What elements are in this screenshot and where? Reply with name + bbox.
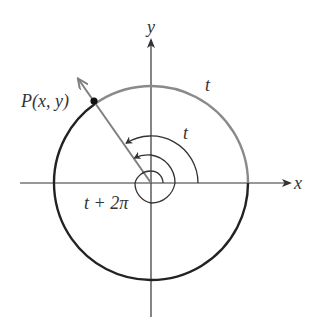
spiral-label: t + 2π — [84, 193, 129, 213]
point-label: P(x, y) — [20, 91, 69, 112]
x-axis-label: x — [293, 173, 302, 193]
point-p — [90, 97, 97, 104]
spiral-t-plus-2pi — [135, 155, 176, 203]
inner-arc-label: t — [183, 123, 189, 143]
outer-arc-label: t — [205, 75, 211, 95]
terminal-ray — [79, 80, 151, 183]
y-axis-label: y — [145, 17, 155, 37]
unit-circle-diagram: y x P(x, y) t t t + 2π — [0, 0, 320, 328]
